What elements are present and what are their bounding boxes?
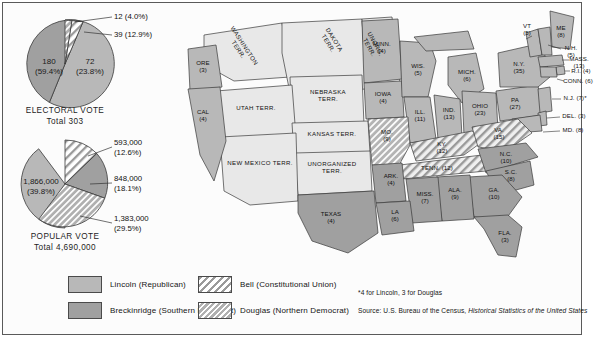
legend-label-douglas: Douglas (Northern Democrat)	[240, 306, 349, 315]
source-prefix: Source: U.S. Bureau of the Census,	[358, 307, 468, 314]
popular-callout-breckinridge: 848,000 (18.1%)	[114, 174, 142, 194]
map-label-illinois: ILL.(11)	[407, 109, 433, 123]
state-michigan-up	[414, 31, 474, 51]
map-label-kansas-territory: KANSAS TERR.	[296, 131, 368, 138]
source-line: Source: U.S. Bureau of the Census, Histo…	[358, 306, 580, 315]
map-label-pennsylvania: PA(27)	[502, 97, 528, 111]
figure-notes: *4 for Lincoln, 3 for Douglas Source: U.…	[358, 288, 580, 315]
map-label-iowa: IOWA(4)	[367, 91, 399, 105]
electoral-vote-pie-chart: 180 (59.4%) 72 (23.8%) 12 (4.0%) 39 (12.…	[8, 12, 188, 127]
electoral-label-breckinridge: 72 (23.8%)	[66, 57, 114, 76]
legend-swatch-breckinridge	[68, 302, 102, 319]
map-label-california: CAL(4)	[188, 109, 218, 123]
map-legend: Lincoln (Republican) Breckinridge (South…	[8, 272, 354, 332]
leader-line-del	[547, 117, 560, 118]
map-label-delaware: DEL. (3)	[560, 113, 588, 120]
map-label-nebraska-territory: NEBRASKATERR.	[298, 89, 358, 103]
electoral-callout-douglas: 12 (4.0%)	[114, 12, 148, 22]
state-utah-territory	[216, 85, 296, 141]
legend-label-lincoln: Lincoln (Republican)	[110, 280, 186, 289]
popular-vote-pie-chart: 1,866,000 (39.8%) 593,000 (12.6%) 848,00…	[8, 130, 188, 255]
map-label-minnesota: MINN.(4)	[366, 41, 398, 55]
map-label-florida: FLA.(3)	[492, 230, 518, 244]
map-label-georgia: GA.(10)	[481, 187, 507, 201]
map-label-texas: TEXAS(4)	[312, 211, 350, 225]
legend-item-douglas: Douglas (Northern Democrat)	[198, 302, 349, 319]
state-kansas-territory	[292, 121, 370, 155]
map-label-maine: ME(8)	[550, 25, 572, 39]
map-label-unorganized-territory: UNORGANIZEDTERR.	[294, 161, 370, 175]
footnote-asterisk: *4 for Lincoln, 3 for Douglas	[358, 288, 580, 297]
map-label-mississippi: MISS.(7)	[411, 191, 439, 205]
legend-swatch-bell	[198, 276, 232, 293]
leader-line-md	[543, 131, 560, 132]
map-label-wisconsin: WIS.(5)	[404, 63, 432, 77]
map-label-maryland: MD. (8)	[560, 127, 586, 134]
map-label-indiana: IND.(13)	[436, 107, 462, 121]
legend-label-bell: Bell (Constitutional Union)	[240, 280, 337, 289]
map-label-michigan: MICH.(6)	[451, 69, 483, 83]
map-label-utah-territory: UTAH TERR.	[224, 105, 288, 112]
legend-item-lincoln: Lincoln (Republican)	[68, 276, 186, 293]
legend-swatch-lincoln	[68, 276, 102, 293]
map-label-connecticut: CONN. (6)	[561, 78, 595, 85]
legend-swatch-douglas	[198, 302, 232, 319]
leader-line-douglas	[75, 17, 112, 22]
map-label-south-carolina: S.C.(8)	[498, 169, 524, 183]
state-new-mexico-territory	[220, 133, 298, 205]
popular-vote-caption: POPULAR VOTE Total 4,690,000	[5, 231, 125, 253]
popular-label-lincoln: 1,866,000 (39.8%)	[10, 177, 72, 196]
map-label-arkansas: ARK.(4)	[377, 173, 405, 187]
map-label-oregon: ORE(3)	[188, 60, 218, 74]
popular-callout-bell: 593,000 (12.6%)	[114, 138, 142, 158]
map-label-ohio: OHIO(23)	[466, 103, 494, 117]
map-label-missouri: MO.(9)	[374, 129, 400, 143]
map-label-rhode-island: R.I. (4)	[568, 68, 594, 75]
map-label-vermont: VT(5)	[516, 23, 538, 37]
map-label-louisiana: LA(6)	[382, 209, 408, 223]
source-title: Historical Statistics of the United Stat…	[468, 307, 587, 314]
map-label-kentucky: KY.(12)	[429, 141, 455, 155]
map-label-new-york: N.Y.(35)	[506, 61, 532, 75]
us-map-1860: ORE(3) CAL(4) WASHINGTONTERR. DAKOTATERR…	[186, 5, 582, 271]
state-rhode-island	[556, 66, 565, 75]
map-label-virginia: VA.(15)	[486, 127, 512, 141]
legend-item-bell: Bell (Constitutional Union)	[198, 276, 337, 293]
state-connecticut	[540, 67, 557, 77]
electoral-vote-caption: ELECTORAL VOTE Total 303	[5, 105, 125, 127]
map-label-alabama: ALA.(9)	[441, 187, 469, 201]
map-label-north-carolina: N.C.(10)	[492, 151, 520, 165]
map-label-new-mexico-territory: NEW MEXICO TERR.	[218, 160, 302, 167]
map-label-new-jersey: N.J. (7)*	[560, 95, 590, 102]
electoral-callout-bell: 39 (12.9%)	[114, 30, 152, 40]
state-california	[188, 87, 226, 181]
map-label-tennessee: TENN. (12)	[410, 165, 464, 172]
state-new-jersey	[538, 87, 552, 113]
